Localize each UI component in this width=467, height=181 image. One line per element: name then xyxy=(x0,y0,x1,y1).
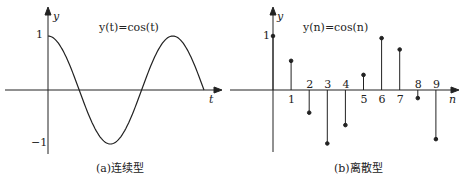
n-tick-label: 2 xyxy=(306,78,313,91)
tick-1-b: 1 xyxy=(263,29,270,42)
n-tick-label: 1 xyxy=(288,93,295,106)
x-axis-label-b: n xyxy=(449,93,456,106)
caption-a: (a)连续型 xyxy=(96,159,144,175)
formula-a: y(t)=cos(t) xyxy=(99,21,159,34)
n-tick-label: 6 xyxy=(379,93,386,106)
n-tick-label: 5 xyxy=(361,93,368,106)
n-tick-label: 4 xyxy=(342,78,349,91)
n-tick-label: 3 xyxy=(324,78,331,91)
x-axis-label-a: t xyxy=(209,93,213,106)
formula-b: y(n)=cos(n) xyxy=(303,21,368,34)
n-tick-label: 8 xyxy=(415,78,422,91)
y-axis-label-b: y xyxy=(277,10,283,23)
n-tick-label: 7 xyxy=(397,93,404,106)
y-axis-label-a: y xyxy=(53,10,59,23)
tick-neg1-a: −1 xyxy=(31,136,47,149)
tick-1-a: 1 xyxy=(36,28,43,41)
caption-b: (b)离散型 xyxy=(334,159,383,175)
diagram-canvas xyxy=(0,0,467,181)
n-tick-label: 9 xyxy=(433,78,440,91)
